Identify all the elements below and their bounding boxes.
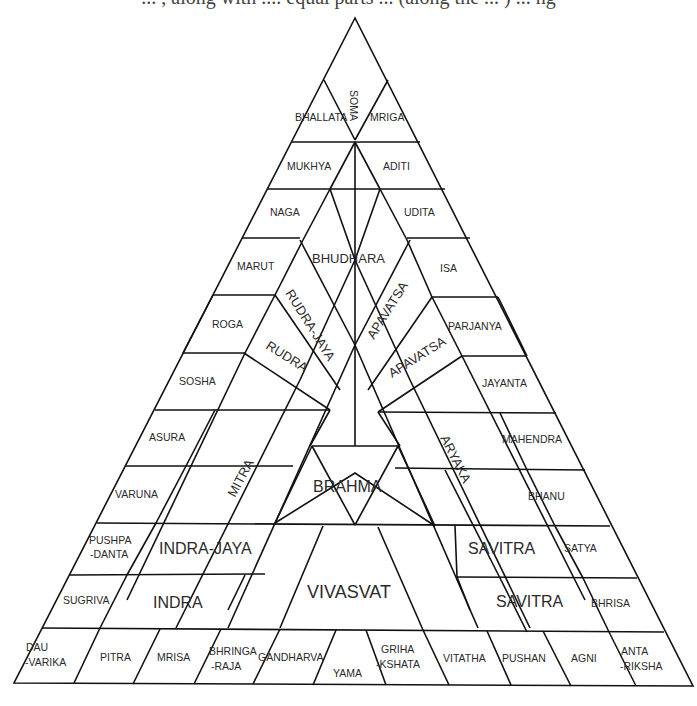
label-brahma: BRAHMA	[313, 478, 382, 495]
divider	[355, 142, 380, 189]
label-satya: SATYA	[564, 542, 597, 554]
divider	[330, 142, 355, 189]
label-parjanya: PARJANYA	[448, 320, 502, 332]
label-aditi: ADITI	[383, 160, 410, 172]
label-mriga: MRIGA	[370, 111, 404, 123]
divider	[183, 295, 213, 353]
label-mrisa: MRISA	[157, 651, 190, 663]
label-riksha: -RIKSHA	[620, 660, 663, 672]
label-vivasvat: VIVASVAT	[307, 582, 391, 602]
label-varuna: VARUNA	[115, 488, 158, 500]
label-apavatsa-2: APAVATSA	[386, 333, 449, 380]
label-marut: MARUT	[237, 260, 275, 272]
divider	[380, 189, 407, 240]
divider	[407, 240, 432, 297]
divider	[355, 189, 380, 260]
label-bhudhara: BHUDHARA	[312, 251, 385, 266]
label-varika: -VARIKA	[25, 656, 66, 668]
label-mahendra: MAHENDRA	[502, 433, 562, 445]
divider	[457, 577, 470, 610]
label-rudra: RUDRA	[263, 338, 310, 375]
row-line	[378, 412, 556, 413]
label-udita: UDITA	[404, 206, 435, 218]
label-savitra-1: SAVITRA	[468, 540, 536, 557]
label-pitra: PITRA	[100, 651, 131, 663]
label-bhallata: BHALLATA	[295, 111, 347, 123]
row-line	[457, 577, 637, 578]
divider	[543, 631, 571, 686]
divider	[310, 410, 330, 446]
label-soma: SOMA	[348, 90, 360, 121]
divider	[275, 240, 303, 295]
divider	[74, 628, 100, 683]
divider	[462, 356, 585, 600]
label-danta: -DANTA	[90, 548, 128, 560]
label-isa: ISA	[440, 262, 457, 274]
divider	[445, 470, 500, 578]
label-naga: NAGA	[270, 206, 300, 218]
row-line	[395, 468, 585, 470]
label-agni: AGNI	[571, 652, 597, 664]
label-indra-jaya: INDRA-JAYA	[159, 540, 252, 557]
divider	[133, 629, 160, 684]
divider	[378, 527, 423, 630]
label-vitatha: VITATHA	[443, 652, 486, 664]
divider	[186, 410, 215, 466]
divider	[609, 632, 636, 686]
label-roga: ROGA	[212, 318, 243, 330]
label-gandharva: GANDHARVA	[258, 651, 324, 663]
label-griha: GRIHA	[381, 643, 414, 655]
label-pushan: PUSHAN	[502, 652, 546, 664]
label-bhringa: BHRINGA	[209, 645, 257, 657]
vastu-triangle-diagram: SOMA BHALLATA MRIGA MUKHYA ADITI NAGA UD…	[0, 0, 697, 706]
label-bhrisa: BHRISA	[591, 597, 630, 609]
label-yama: YAMA	[333, 667, 362, 679]
divider	[303, 189, 330, 240]
divider	[498, 297, 527, 356]
label-pushpa: PUSHPA	[89, 534, 131, 546]
divider	[228, 575, 245, 610]
label-dau: DAU	[26, 641, 48, 653]
label-sugriva: SUGRIVA	[63, 594, 109, 606]
row-line	[42, 628, 664, 632]
label-mukhya: MUKHYA	[287, 160, 331, 172]
divider	[127, 353, 245, 600]
divider	[410, 380, 530, 628]
divider	[280, 526, 323, 628]
label-kshata: -KSHATA	[376, 658, 420, 670]
label-indra: INDRA	[153, 594, 203, 611]
label-bhanu: BHANU	[528, 490, 565, 502]
row-line	[70, 574, 265, 575]
label-sosha: SOSHA	[179, 375, 216, 387]
label-raja: -RAJA	[211, 660, 241, 672]
divider	[330, 189, 355, 260]
divider	[156, 466, 186, 523]
label-asura: ASURA	[149, 431, 185, 443]
label-anta: ANTA	[621, 645, 648, 657]
label-aryaka: ARYAKA	[437, 433, 474, 486]
divider	[378, 412, 400, 446]
label-savitra-2: SAVITRA	[496, 593, 564, 610]
divider	[455, 526, 457, 577]
label-jayanta: JAYANTA	[482, 377, 527, 389]
